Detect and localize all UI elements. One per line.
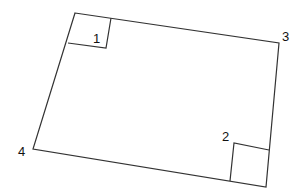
diagram-canvas: 1 3 2 4 <box>0 0 302 195</box>
right-angle-marker-2 <box>230 143 269 181</box>
corner-label-2: 2 <box>222 129 229 144</box>
corner-label-3: 3 <box>282 29 289 44</box>
right-angle-marker-1 <box>68 18 111 48</box>
corner-label-4: 4 <box>18 144 25 159</box>
quadrilateral-outline <box>33 13 279 187</box>
corner-label-1: 1 <box>93 31 100 46</box>
quadrilateral-diagram: 1 3 2 4 <box>0 0 302 195</box>
